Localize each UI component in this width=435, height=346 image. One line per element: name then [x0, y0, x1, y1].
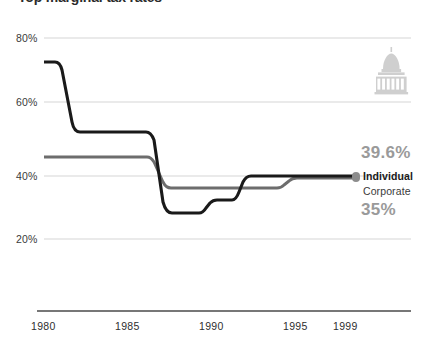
y-tick-label-60: 60% — [16, 96, 38, 108]
tax-rate-line-chart: 80% 60% 40% 20% 39.6% Ind — [0, 0, 435, 346]
capitol-building-icon — [375, 47, 409, 94]
y-axis-labels: 80% 60% 40% 20% — [16, 32, 38, 245]
legend-dot-corporate — [352, 174, 360, 182]
legend-label-individual: Individual — [363, 170, 413, 182]
chart-page: Top marginal tax rates 80% 60% 40% 20% — [0, 0, 435, 346]
series-line-individual — [44, 62, 356, 213]
gridlines — [44, 38, 411, 239]
x-tick-label-1995: 1995 — [283, 320, 308, 332]
y-tick-label-40: 40% — [16, 170, 38, 182]
x-tick-label-1985: 1985 — [115, 320, 140, 332]
y-tick-label-80: 80% — [16, 32, 38, 44]
x-tick-label-1990: 1990 — [199, 320, 224, 332]
corporate-value-annotation: 35% — [361, 200, 396, 219]
y-tick-label-20: 20% — [16, 233, 38, 245]
series-line-corporate — [44, 157, 356, 188]
x-axis-labels: 1980 1985 1990 1995 1999 — [31, 320, 358, 332]
individual-value-annotation: 39.6% — [361, 143, 411, 162]
x-tick-label-1999: 1999 — [333, 320, 358, 332]
legend-label-corporate: Corporate — [363, 185, 411, 197]
x-tick-label-1980: 1980 — [31, 320, 56, 332]
